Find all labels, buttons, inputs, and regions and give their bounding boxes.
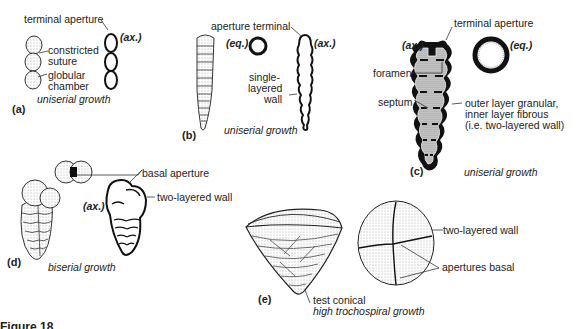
label-equatorial-section: (eq.) bbox=[226, 38, 248, 49]
growth-type: uniserial growth bbox=[464, 167, 538, 178]
panel-b-axial-section bbox=[298, 35, 313, 130]
label-two-layered-wall: two-layered wall bbox=[443, 225, 518, 236]
label-foramen: foramen bbox=[373, 68, 412, 79]
panel-c-axial-section bbox=[410, 40, 452, 170]
label-septum: septum bbox=[378, 97, 412, 108]
panel-c-equatorial-section bbox=[475, 39, 507, 71]
panel-letter: (e) bbox=[258, 294, 271, 305]
label-terminal-aperture: terminal aperture bbox=[454, 18, 533, 29]
label-equatorial-section: (eq.) bbox=[510, 40, 532, 51]
label-axial-section: (ax.) bbox=[83, 201, 105, 212]
panel-e-conical-test bbox=[246, 209, 342, 294]
panel-letter: (b) bbox=[182, 130, 196, 141]
panel-d-apertural-view bbox=[55, 161, 92, 183]
label-chamber: chamber bbox=[48, 81, 89, 92]
growth-type: uniserial growth bbox=[37, 94, 111, 105]
panel-b-equatorial-section bbox=[250, 38, 266, 54]
panel-a-external-drawing bbox=[25, 36, 42, 89]
label-apertures-basal: apertures basal bbox=[442, 262, 514, 273]
growth-type: biserial growth bbox=[48, 262, 116, 273]
label-axial-section: (ax.) bbox=[120, 32, 142, 43]
growth-type: uniserial growth bbox=[224, 125, 298, 136]
label-two-layered-note: (i.e. two-layered wall) bbox=[465, 120, 564, 131]
label-two-layered-wall: two-layered wall bbox=[157, 192, 232, 203]
panel-letter: (d) bbox=[7, 257, 21, 268]
panel-a-axial-section bbox=[105, 34, 117, 89]
panel-letter: (c) bbox=[410, 166, 423, 177]
label-aperture-terminal: aperture terminal bbox=[211, 21, 290, 32]
panel-d-axial-section bbox=[106, 180, 146, 255]
panel-letter: (a) bbox=[12, 104, 25, 115]
label-axial-section: (ax.) bbox=[314, 38, 336, 49]
panel-b-external-drawing bbox=[197, 35, 214, 130]
label-wall: wall bbox=[264, 94, 282, 105]
panel-d-external-drawing bbox=[21, 180, 60, 259]
growth-type: high trochospiral growth bbox=[313, 306, 424, 317]
label-suture: suture bbox=[48, 56, 77, 67]
label-axial-section: (ax.) bbox=[402, 40, 424, 51]
figure-caption: Figure 18. bbox=[0, 320, 57, 329]
label-terminal-aperture: terminal aperture bbox=[24, 14, 103, 25]
label-basal-aperture: basal aperture bbox=[142, 168, 209, 179]
